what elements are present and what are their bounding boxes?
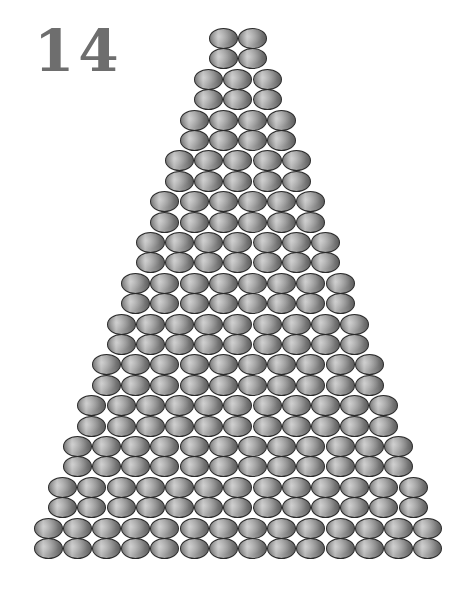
coin (253, 416, 282, 437)
coin (34, 518, 63, 539)
coin (209, 28, 238, 49)
coin (180, 130, 209, 151)
coin (282, 314, 311, 335)
coin (48, 497, 77, 518)
coin (136, 416, 165, 437)
coin (63, 538, 92, 559)
coin (165, 171, 194, 192)
coin (223, 89, 252, 110)
coin (107, 497, 136, 518)
coin (180, 110, 209, 131)
coin (209, 375, 238, 396)
coin (267, 375, 296, 396)
coin (223, 395, 252, 416)
coin (223, 171, 252, 192)
coin (150, 456, 179, 477)
coin (223, 477, 252, 498)
coin (369, 416, 398, 437)
coin (180, 273, 209, 294)
coin (194, 252, 223, 273)
coin (399, 497, 428, 518)
coin (311, 497, 340, 518)
coin (267, 191, 296, 212)
coin (194, 497, 223, 518)
coin (384, 518, 413, 539)
coin (282, 497, 311, 518)
coin (340, 314, 369, 335)
coin (267, 456, 296, 477)
coin (121, 273, 150, 294)
coin (223, 334, 252, 355)
coin (238, 436, 267, 457)
coin (209, 456, 238, 477)
coin (209, 191, 238, 212)
coin (253, 477, 282, 498)
coin-stack (0, 0, 474, 593)
coin (121, 538, 150, 559)
coin (209, 110, 238, 131)
coin (267, 436, 296, 457)
coin (253, 150, 282, 171)
coin (107, 334, 136, 355)
coin (326, 538, 355, 559)
coin (311, 314, 340, 335)
coin (253, 497, 282, 518)
coin (180, 212, 209, 233)
coin (296, 191, 325, 212)
coin (180, 456, 209, 477)
coin (238, 110, 267, 131)
coin (384, 436, 413, 457)
coin (253, 89, 282, 110)
coin (180, 375, 209, 396)
coin (296, 354, 325, 375)
coin (209, 436, 238, 457)
coin (136, 497, 165, 518)
coin (223, 69, 252, 90)
coin (311, 477, 340, 498)
coin (165, 314, 194, 335)
coin (326, 354, 355, 375)
coin (92, 436, 121, 457)
coin (355, 538, 384, 559)
coin (121, 375, 150, 396)
coin (282, 232, 311, 253)
coin (355, 436, 384, 457)
coin (92, 538, 121, 559)
coin (369, 395, 398, 416)
coin (267, 293, 296, 314)
coin (63, 518, 92, 539)
coin (63, 436, 92, 457)
coin (107, 314, 136, 335)
coin (384, 538, 413, 559)
coin (238, 456, 267, 477)
coin (296, 212, 325, 233)
coin (194, 334, 223, 355)
coin (209, 518, 238, 539)
coin (296, 293, 325, 314)
coin (209, 212, 238, 233)
coin (267, 518, 296, 539)
coin (355, 354, 384, 375)
coin (311, 334, 340, 355)
coin (150, 354, 179, 375)
coin (107, 477, 136, 498)
coin (296, 518, 325, 539)
coin (77, 395, 106, 416)
coin (165, 477, 194, 498)
coin (296, 436, 325, 457)
coin (326, 436, 355, 457)
coin (282, 334, 311, 355)
coin (311, 416, 340, 437)
coin (267, 273, 296, 294)
coin (223, 150, 252, 171)
coin (180, 436, 209, 457)
coin (355, 518, 384, 539)
coin (282, 395, 311, 416)
coin (150, 375, 179, 396)
coin (326, 518, 355, 539)
coin (326, 456, 355, 477)
coin (326, 273, 355, 294)
coin (223, 497, 252, 518)
coin (238, 273, 267, 294)
coin (77, 497, 106, 518)
